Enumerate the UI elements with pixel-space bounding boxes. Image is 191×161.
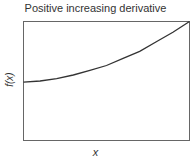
plot-area	[0, 0, 191, 161]
curve-line	[24, 22, 190, 83]
plot-frame	[24, 22, 190, 141]
